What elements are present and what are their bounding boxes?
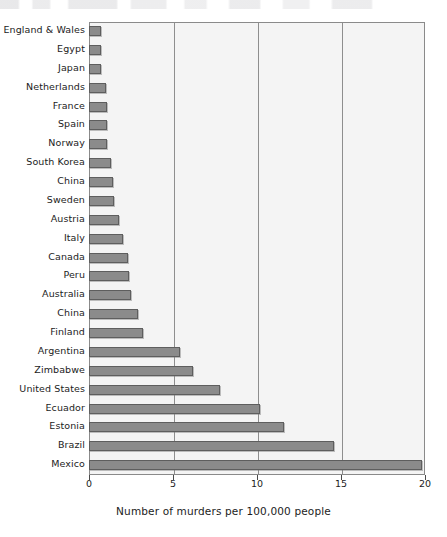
category-label: Argentina: [0, 345, 85, 356]
category-label: Ecuador: [0, 402, 85, 413]
category-label: Egypt: [0, 43, 85, 54]
x-axis-tick-label: 10: [237, 478, 277, 489]
bar: [89, 26, 101, 36]
category-label: Peru: [0, 269, 85, 280]
category-label: Finland: [0, 326, 85, 337]
category-label: Austria: [0, 213, 85, 224]
category-label: Australia: [0, 288, 85, 299]
x-axis-tick-label: 15: [321, 478, 361, 489]
bar: [89, 385, 220, 395]
category-label: England & Wales: [0, 24, 85, 35]
category-axis-labels: England & WalesEgyptJapanNetherlandsFran…: [0, 22, 85, 475]
bar: [89, 158, 111, 168]
x-axis-tick-labels: 05101520: [0, 478, 447, 494]
bar: [89, 177, 113, 187]
category-label: Brazil: [0, 439, 85, 450]
bar: [89, 309, 138, 319]
category-label: Japan: [0, 62, 85, 73]
category-label: France: [0, 100, 85, 111]
bar: [89, 347, 180, 357]
category-label: Canada: [0, 251, 85, 262]
bar: [89, 366, 193, 376]
horizontal-bar-chart: England & WalesEgyptJapanNetherlandsFran…: [0, 0, 447, 537]
bar: [89, 234, 123, 244]
bar: [89, 271, 129, 281]
category-label: Norway: [0, 137, 85, 148]
bar: [89, 328, 143, 338]
bar: [89, 120, 107, 130]
category-label: China: [0, 175, 85, 186]
category-label: Spain: [0, 118, 85, 129]
category-label: Italy: [0, 232, 85, 243]
category-label: China: [0, 307, 85, 318]
category-label: Netherlands: [0, 81, 85, 92]
category-label: Zimbabwe: [0, 364, 85, 375]
bar: [89, 64, 101, 74]
category-label: Estonia: [0, 420, 85, 431]
bar: [89, 83, 106, 93]
bar: [89, 441, 334, 451]
bar: [89, 253, 128, 263]
bars-layer: [89, 22, 425, 475]
category-label: Mexico: [0, 458, 85, 469]
category-label: Sweden: [0, 194, 85, 205]
bar: [89, 404, 260, 414]
category-label: South Korea: [0, 156, 85, 167]
bar: [89, 139, 107, 149]
bar: [89, 45, 101, 55]
x-axis-tick-label: 0: [69, 478, 109, 489]
category-label: United States: [0, 383, 85, 394]
bar: [89, 290, 131, 300]
x-axis-tick-label: 20: [405, 478, 445, 489]
x-axis-title: Number of murders per 100,000 people: [0, 505, 447, 517]
bar: [89, 215, 119, 225]
bar: [89, 460, 422, 470]
x-axis-tick-label: 5: [153, 478, 193, 489]
bar: [89, 102, 107, 112]
bar: [89, 422, 284, 432]
bar: [89, 196, 114, 206]
